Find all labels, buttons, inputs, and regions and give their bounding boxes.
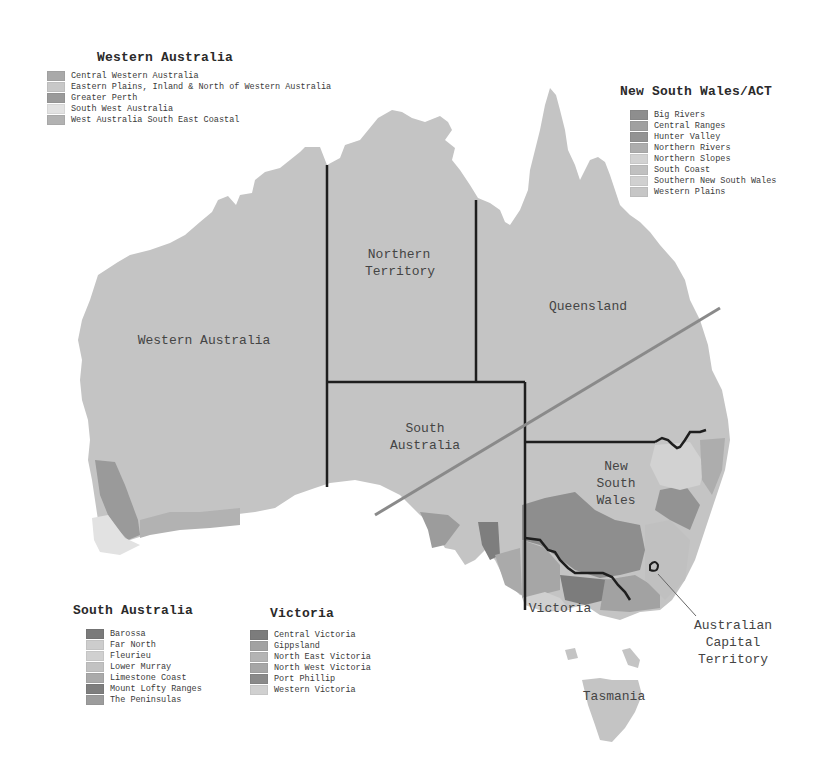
legend-label: Central Ranges — [654, 121, 725, 131]
legend-label: West Australia South East Coastal — [71, 115, 239, 125]
legend-item: Northern Slopes — [630, 153, 776, 164]
label-act-1: Australian — [694, 618, 772, 633]
legend-label: North West Victoria — [274, 663, 371, 673]
region-limestone-coast — [495, 548, 522, 595]
legend-label: Hunter Valley — [654, 132, 720, 142]
color-swatch — [86, 673, 104, 683]
color-swatch — [250, 663, 268, 673]
legend-nsw-act: New South Wales/ACT Big Rivers Central R… — [618, 84, 776, 197]
color-swatch — [86, 695, 104, 705]
legend-item: Big Rivers — [630, 109, 776, 120]
legend-label: Far North — [110, 640, 156, 650]
color-swatch — [630, 187, 648, 197]
legend-label: Lower Murray — [110, 662, 171, 672]
color-swatch — [250, 685, 268, 695]
legend-label: North East Victoria — [274, 652, 371, 662]
legend-item: Port Phillip — [250, 673, 371, 684]
label-northern-territory-2: Territory — [365, 264, 435, 279]
color-swatch — [86, 684, 104, 694]
legend-item: West Australia South East Coastal — [47, 114, 331, 125]
color-swatch — [250, 674, 268, 684]
legend-label: Mount Lofty Ranges — [110, 684, 202, 694]
label-nsw-2: South — [596, 476, 635, 491]
legend-item: Limestone Coast — [86, 672, 202, 683]
color-swatch — [47, 93, 65, 103]
legend-label: Western Plains — [654, 187, 725, 197]
legend-label: Northern Rivers — [654, 143, 731, 153]
legend-victoria: Victoria Central Victoria Gippsland Nort… — [250, 606, 371, 695]
legend-title: Western Australia — [97, 50, 331, 65]
color-swatch — [630, 110, 648, 120]
color-swatch — [250, 630, 268, 640]
label-act-3: Territory — [698, 652, 768, 667]
legend-item: Southern New South Wales — [630, 175, 776, 186]
legend-label: South West Australia — [71, 104, 173, 114]
legend-western-australia: Western Australia Central Western Austra… — [47, 50, 331, 125]
label-queensland: Queensland — [549, 299, 627, 314]
legend-label: South Coast — [654, 165, 710, 175]
legend-item: Fleurieu — [86, 650, 202, 661]
color-swatch — [47, 71, 65, 81]
color-swatch — [630, 165, 648, 175]
label-tasmania: Tasmania — [583, 689, 646, 704]
legend-label: Greater Perth — [71, 93, 137, 103]
legend-item: Central Western Australia — [47, 70, 331, 81]
color-swatch — [250, 652, 268, 662]
legend-label: Fleurieu — [110, 651, 151, 661]
legend-item: Western Plains — [630, 186, 776, 197]
label-act-2: Capital — [706, 635, 761, 650]
color-swatch — [630, 121, 648, 131]
color-swatch — [86, 640, 104, 650]
legend-item: Central Ranges — [630, 120, 776, 131]
color-swatch — [86, 651, 104, 661]
label-western-australia: Western Australia — [138, 333, 271, 348]
legend-item: South Coast — [630, 164, 776, 175]
color-swatch — [86, 662, 104, 672]
legend-item: Lower Murray — [86, 661, 202, 672]
legend-label: Gippsland — [274, 641, 320, 651]
legend-item: Mount Lofty Ranges — [86, 683, 202, 694]
color-swatch — [47, 104, 65, 114]
legend-label: Western Victoria — [274, 685, 356, 695]
legend-title: South Australia — [73, 603, 202, 618]
legend-item: The Peninsulas — [86, 694, 202, 705]
color-swatch — [47, 115, 65, 125]
legend-item: North East Victoria — [250, 651, 371, 662]
legend-item: Western Victoria — [250, 684, 371, 695]
label-nsw-3: Wales — [596, 493, 635, 508]
island — [622, 648, 640, 668]
legend-label: Limestone Coast — [110, 673, 187, 683]
label-victoria: Victoria — [529, 601, 592, 616]
legend-item: Gippsland — [250, 640, 371, 651]
island — [565, 648, 578, 660]
legend-label: Eastern Plains, Inland & North of Wester… — [71, 82, 331, 92]
legend-item: Hunter Valley — [630, 131, 776, 142]
legend-item: Greater Perth — [47, 92, 331, 103]
legend-label: Central Victoria — [274, 630, 356, 640]
legend-label: Southern New South Wales — [654, 176, 776, 186]
color-swatch — [250, 641, 268, 651]
legend-label: Big Rivers — [654, 110, 705, 120]
legend-label: Northern Slopes — [654, 154, 731, 164]
color-swatch — [630, 154, 648, 164]
color-swatch — [47, 82, 65, 92]
legend-item: North West Victoria — [250, 662, 371, 673]
legend-title: New South Wales/ACT — [620, 84, 776, 99]
color-swatch — [630, 143, 648, 153]
label-south-australia-1: South — [405, 421, 444, 436]
legend-item: South West Australia — [47, 103, 331, 114]
legend-label: Port Phillip — [274, 674, 335, 684]
legend-item: Central Victoria — [250, 629, 371, 640]
legend-label: Barossa — [110, 629, 146, 639]
label-south-australia-2: Australia — [390, 438, 460, 453]
legend-label: Central Western Australia — [71, 71, 199, 81]
legend-label: The Peninsulas — [110, 695, 181, 705]
legend-item: Eastern Plains, Inland & North of Wester… — [47, 81, 331, 92]
color-swatch — [630, 132, 648, 142]
legend-item: Barossa — [86, 628, 202, 639]
legend-item: Northern Rivers — [630, 142, 776, 153]
legend-item: Far North — [86, 639, 202, 650]
legend-south-australia: South Australia Barossa Far North Fleuri… — [73, 603, 202, 705]
tasmania-landmass — [582, 678, 642, 742]
color-swatch — [630, 176, 648, 186]
